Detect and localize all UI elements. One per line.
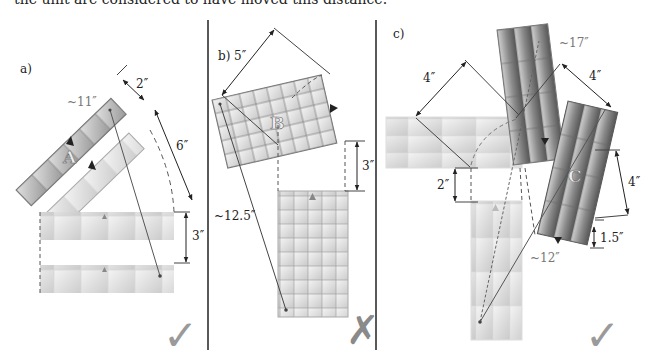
facing-arrow-icon: [88, 160, 96, 170]
panel-c-label: c): [393, 27, 404, 41]
width-measure-a: 2″: [136, 77, 149, 91]
total-distance-a: ~11″: [67, 95, 97, 109]
wheel-measure-c-1: 4″: [423, 71, 436, 85]
pivot-measure-b: 5″: [234, 49, 247, 63]
cross-icon: ✗: [346, 307, 380, 353]
forward-measure-c: 4″: [628, 175, 641, 189]
panel-b-label: b): [218, 49, 230, 63]
movement-diagram: a) A ~11″ 2″ 6″ 3″ ✓: [0, 0, 658, 364]
facing-arrow-icon: [330, 104, 338, 113]
back-measure-c: 1.5″: [600, 231, 624, 245]
facing-arrow-icon: [554, 237, 562, 244]
panel-a-label: a): [20, 62, 32, 76]
panel-a: a) A ~11″ 2″ 6″ 3″ ✓: [16, 62, 205, 360]
total-distance-c: ~12″: [530, 251, 560, 265]
check-icon: ✓: [585, 311, 620, 360]
unit-b-end: [278, 191, 348, 317]
unit-b-label: B: [270, 113, 284, 133]
unit-c-start: [386, 117, 522, 168]
forward-measure-a: 3″: [192, 229, 205, 243]
unit-a-mid: [40, 212, 174, 240]
forward-measure-b: 3″: [362, 159, 375, 173]
panel-c: c) C 4″ 4″ ~17″: [386, 24, 641, 360]
unit-c-end: [471, 201, 522, 340]
drop-measure-c: 2″: [437, 178, 450, 192]
check-icon: ✓: [163, 311, 198, 360]
unit-a-label: A: [62, 147, 77, 167]
panel-b: b) B 5″ 3″ ~12.5″ ✗: [212, 28, 380, 353]
wheel-measure-a: 6″: [176, 139, 189, 153]
unit-a-end: [40, 265, 174, 293]
total-distance-b: ~12.5″: [214, 209, 256, 223]
wheel-measure-c-2: 4″: [589, 69, 602, 83]
total-distance-c-far: ~17″: [559, 36, 589, 50]
